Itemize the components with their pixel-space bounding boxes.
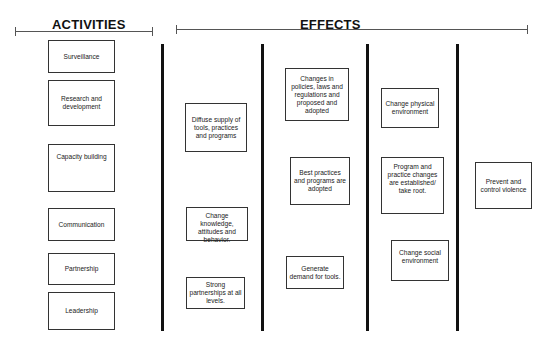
effect-box-program-practice-changes: Program and practice changes are establi… <box>381 157 444 214</box>
divider-bar-1-lower <box>161 44 164 331</box>
activity-label: Capacity building <box>56 153 106 161</box>
activity-label: Leadership <box>65 307 98 315</box>
divider-bar-4 <box>456 44 459 331</box>
activity-label: Research and development <box>51 95 112 111</box>
effect-label: Best practices and programs are adopted <box>293 169 347 193</box>
outcome-label: Prevent and control violence <box>478 178 529 194</box>
divider-bar-2 <box>261 44 264 331</box>
activity-label: Communication <box>59 221 105 229</box>
activity-box-surveillance: Surveillance <box>48 40 115 73</box>
activities-bracket-left-tick <box>15 27 16 36</box>
activity-box-communication: Communication <box>48 208 115 241</box>
activity-box-partnership: Partnership <box>48 253 115 285</box>
activity-box-leadership: Leadership <box>48 292 115 330</box>
effect-box-social-environment: Change social environment <box>391 240 449 281</box>
effect-label: Change social environment <box>394 249 446 265</box>
effect-box-strong-partnerships: Strong partnerships at all levels. <box>186 277 245 309</box>
effect-label: Generate demand for tools. <box>289 265 341 281</box>
activity-box-capacity-building: Capacity building <box>48 144 115 192</box>
divider-bar-3 <box>366 44 369 331</box>
effect-box-policy-changes: Changes in policies, laws and regulation… <box>285 68 349 121</box>
effects-bracket-line <box>176 29 528 30</box>
effects-bracket-right-tick <box>527 25 528 34</box>
activity-label: Surveillance <box>64 53 100 61</box>
effect-label: Strong partnerships at all levels. <box>189 281 242 305</box>
effects-bracket-left-tick <box>176 25 177 34</box>
activities-bracket-line <box>15 31 153 32</box>
activity-box-research: Research and development <box>48 80 115 126</box>
outcome-box-prevent-violence: Prevent and control violence <box>475 162 532 209</box>
effect-box-best-practices: Best practices and programs are adopted <box>290 157 350 205</box>
activities-header: ACTIVITIES <box>52 17 126 32</box>
effect-label: Diffuse supply of tools, practices and p… <box>188 116 244 140</box>
effect-box-diffuse-supply: Diffuse supply of tools, practices and p… <box>185 103 247 152</box>
effect-label: Program and practice changes are establi… <box>384 163 441 195</box>
activities-bracket-right-tick <box>152 27 153 36</box>
effect-label: Change knowledge, attitudes and behavior… <box>189 212 245 244</box>
effect-box-physical-environment: Change physical environment <box>381 88 439 128</box>
effect-label: Change physical environment <box>384 100 436 116</box>
effect-box-change-knowledge: Change knowledge, attitudes and behavior… <box>186 207 248 241</box>
effect-label: Changes in policies, laws and regulation… <box>288 75 346 115</box>
activity-label: Partnership <box>65 265 99 273</box>
effect-box-generate-demand: Generate demand for tools. <box>286 256 344 289</box>
